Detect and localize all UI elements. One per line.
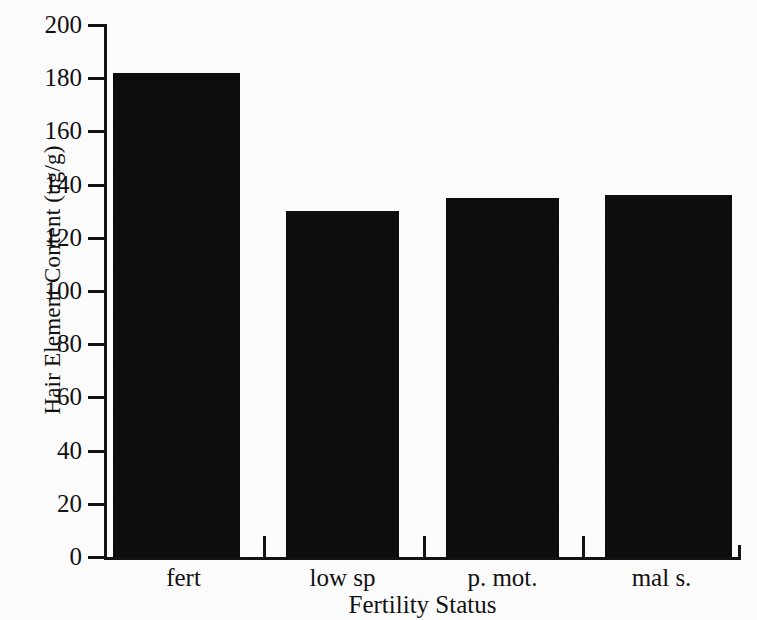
- x-axis-tick: [423, 536, 426, 558]
- y-axis-tick: [88, 290, 105, 293]
- y-axis-tick-label-container: 160: [0, 118, 82, 143]
- y-axis-tick-label-container: 120: [0, 225, 82, 250]
- bar-chart: Hair Element Content (ug/g) 020406080100…: [0, 0, 757, 620]
- y-axis-tick-label-container: 80: [0, 331, 82, 356]
- y-axis-tick-label-container: 40: [0, 438, 82, 463]
- bar: [605, 195, 732, 557]
- y-axis-tick-label: 140: [8, 172, 82, 197]
- y-axis-tick-label: 180: [8, 65, 82, 90]
- y-axis-tick-label: 160: [8, 118, 82, 143]
- bar: [286, 211, 399, 557]
- y-axis-tick-label-container: 60: [0, 384, 82, 409]
- y-axis-tick-label: 60: [8, 384, 82, 409]
- x-axis-tick: [582, 536, 585, 558]
- y-axis-tick: [88, 237, 105, 240]
- x-axis-category-label: low sp: [263, 563, 422, 592]
- y-axis-tick-label-container: 100: [0, 278, 82, 303]
- bar: [446, 198, 559, 557]
- y-axis-tick-label-container: 200: [0, 12, 82, 37]
- y-axis-tick-label: 100: [8, 278, 82, 303]
- y-axis-tick: [88, 77, 105, 80]
- y-axis-tick-label: 80: [8, 331, 82, 356]
- y-axis-tick-label: 40: [8, 438, 82, 463]
- y-axis-tick: [88, 184, 105, 187]
- y-axis-tick-label: 20: [8, 491, 82, 516]
- y-axis-tick-label-container: 180: [0, 65, 82, 90]
- y-axis-tick-label-container: 0: [0, 544, 82, 569]
- x-axis-endcap: [738, 545, 741, 558]
- y-axis-tick: [88, 503, 105, 506]
- y-axis-tick-label-container: 20: [0, 491, 82, 516]
- y-axis-tick: [88, 24, 105, 27]
- x-axis-tick: [263, 536, 266, 558]
- y-axis-tick: [88, 130, 105, 133]
- y-axis-tick-label: 0: [8, 544, 82, 569]
- bar: [113, 73, 240, 557]
- y-axis-tick: [88, 556, 105, 559]
- y-axis-tick: [88, 396, 105, 399]
- y-axis-tick: [88, 343, 105, 346]
- y-axis-tick-label-container: 140: [0, 172, 82, 197]
- x-axis-endcap: [104, 545, 107, 558]
- y-axis-tick: [88, 450, 105, 453]
- x-axis-category-label: p. mot.: [423, 563, 582, 592]
- y-axis-tick-label: 200: [8, 12, 82, 37]
- y-axis-tick-label: 120: [8, 225, 82, 250]
- x-axis-category-label: mal s.: [582, 563, 741, 592]
- x-axis-category-label: fert: [104, 563, 263, 592]
- x-axis-title: Fertility Status: [104, 591, 741, 618]
